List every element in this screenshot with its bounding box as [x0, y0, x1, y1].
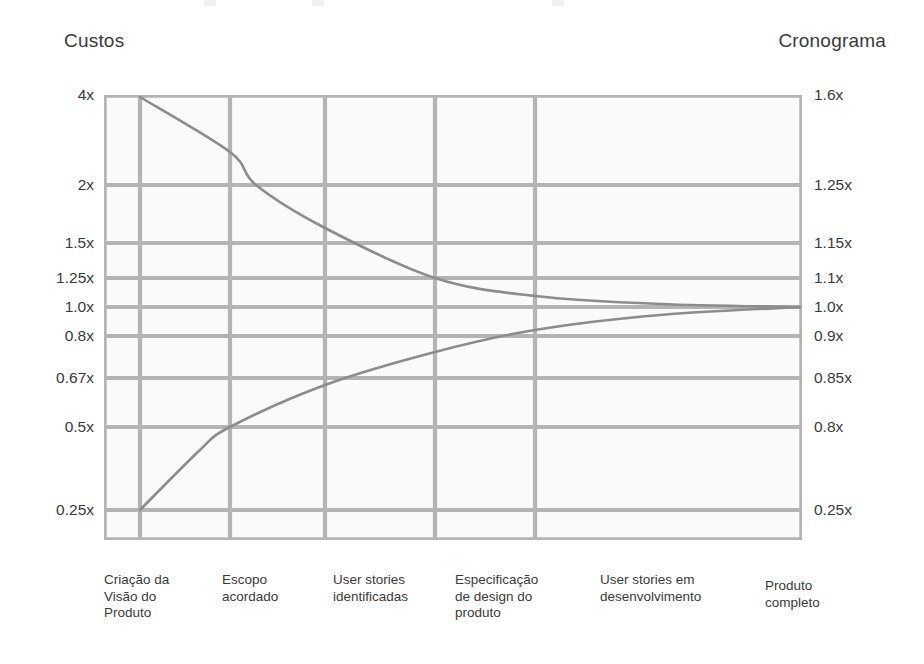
x-axis-label-2-line-1: identificadas [333, 589, 408, 606]
x-axis-label-1-line-1: acordado [222, 589, 278, 606]
cone-of-uncertainty-chart: Custos Cronograma 4x2x1.5x1.25x1.0x0.8x0… [0, 0, 924, 664]
x-axis-category-labels: Criação daVisão doProdutoEscopoacordadoU… [0, 0, 924, 664]
x-axis-label-2-line-0: User stories [333, 572, 408, 589]
x-axis-label-4-line-1: desenvolvimento [600, 589, 701, 606]
x-axis-label-2: User storiesidentificadas [333, 572, 408, 605]
x-axis-label-5-line-0: Produto [765, 578, 820, 595]
x-axis-label-3-line-2: produto [455, 605, 538, 622]
x-axis-label-3-line-1: de design do [455, 589, 538, 606]
x-axis-label-1-line-0: Escopo [222, 572, 278, 589]
x-axis-label-0-line-2: Produto [104, 605, 169, 622]
x-axis-label-3: Especificaçãode design doproduto [455, 572, 538, 622]
x-axis-label-0-line-1: Visão do [104, 589, 169, 606]
x-axis-label-5: Produtocompleto [765, 578, 820, 611]
x-axis-label-1: Escopoacordado [222, 572, 278, 605]
x-axis-label-3-line-0: Especificação [455, 572, 538, 589]
x-axis-label-0: Criação daVisão doProduto [104, 572, 169, 622]
x-axis-label-4-line-0: User stories em [600, 572, 701, 589]
x-axis-label-0-line-0: Criação da [104, 572, 169, 589]
x-axis-label-4: User stories emdesenvolvimento [600, 572, 701, 605]
x-axis-label-5-line-1: completo [765, 595, 820, 612]
